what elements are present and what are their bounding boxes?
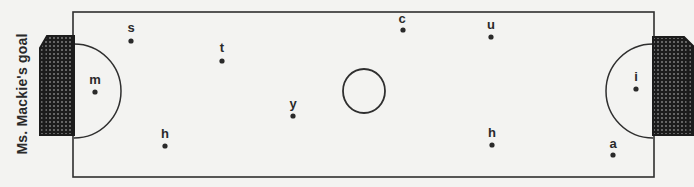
player-marker: h [161, 126, 169, 149]
field: s t m h y c u h [0, 0, 694, 187]
player-dot [219, 58, 224, 63]
player-dot [489, 142, 494, 147]
player-label: t [220, 40, 225, 55]
player-dot [92, 89, 97, 94]
player-label: y [289, 96, 297, 111]
player-label: i [634, 69, 638, 84]
left-goal-net-icon [40, 36, 74, 135]
player-marker: a [609, 136, 617, 158]
player-marker: y [289, 96, 297, 119]
player-marker: s [127, 20, 134, 44]
player-dot [610, 152, 615, 157]
player-label: s [127, 20, 134, 35]
player-marker: t [219, 40, 224, 64]
player-label: u [487, 17, 495, 32]
left-shooting-circle [74, 44, 121, 138]
player-label: c [398, 11, 405, 26]
player-dot [128, 38, 133, 43]
player-label: h [488, 125, 496, 140]
player-dot [290, 113, 295, 118]
player-marker: m [89, 72, 101, 95]
player-dot [488, 34, 493, 39]
right-shooting-circle [606, 44, 653, 138]
player-marker: u [487, 17, 495, 40]
center-circle [343, 69, 385, 113]
player-label: h [161, 126, 169, 141]
right-goal-net-icon [653, 37, 694, 135]
player-dot [633, 86, 638, 91]
player-label: m [89, 72, 101, 87]
player-dot [162, 143, 167, 148]
player-marker: h [488, 125, 496, 148]
goal-label: Ms. Mackie's goal [14, 33, 30, 154]
field-boundary [73, 12, 654, 177]
player-marker: i [633, 69, 638, 92]
player-marker: c [398, 11, 405, 33]
player-dot [400, 27, 405, 32]
player-label: a [609, 136, 617, 151]
